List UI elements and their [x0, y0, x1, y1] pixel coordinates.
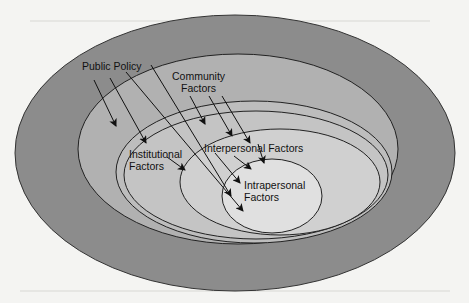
label-institutional-2: Factors — [129, 160, 164, 172]
socio-ecological-diagram: Public Policy Community Factors Institut… — [0, 0, 469, 303]
label-institutional-1: Institutional — [129, 148, 182, 160]
label-interpersonal: Interpersonal Factors — [204, 142, 303, 154]
label-community-1: Community — [172, 70, 226, 82]
label-intrapersonal-1: Intrapersonal — [244, 179, 305, 191]
label-public-policy: Public Policy — [82, 60, 142, 72]
label-community-2: Factors — [181, 82, 216, 94]
label-intrapersonal-2: Factors — [244, 191, 279, 203]
